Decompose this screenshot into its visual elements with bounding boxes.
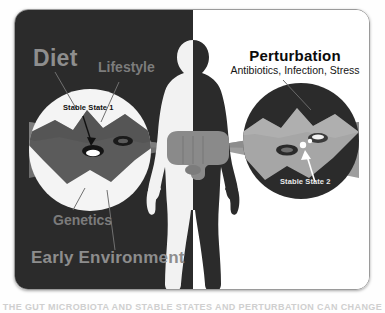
label-stable-state-1: Stable State 1 <box>63 104 114 112</box>
figure-caption-partial: THE GUT MICROBIOTA AND STABLE STATES AND… <box>0 303 385 313</box>
label-lifestyle: Lifestyle <box>98 60 155 74</box>
figure-frame: Diet Lifestyle Genetics Early Environmen… <box>14 9 370 290</box>
hand-left <box>147 180 161 215</box>
heading-perturbation: Perturbation <box>221 48 369 63</box>
label-early-environment: Early Environment <box>31 249 185 266</box>
figure-root: Diet Lifestyle Genetics Early Environmen… <box>0 0 385 313</box>
hand-right <box>225 180 239 215</box>
caption-text: THE GUT MICROBIOTA AND STABLE STATES AND… <box>0 303 385 313</box>
label-diet: Diet <box>33 47 78 70</box>
subheading-perturbation-causes: Antibiotics, Infection, Stress <box>211 65 370 76</box>
label-genetics: Genetics <box>53 213 112 227</box>
label-stable-state-2: Stable State 2 <box>280 178 331 186</box>
